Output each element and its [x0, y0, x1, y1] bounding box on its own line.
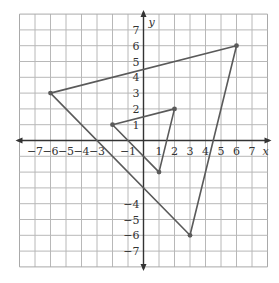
vertex-point [172, 107, 177, 112]
tick-labels: −7−6−5−4−3−112345677654321−4−5−6−7xy [27, 16, 270, 258]
y-tick-label: 5 [133, 56, 140, 69]
x-tick-label: −7 [27, 145, 43, 158]
y-tick-label: 1 [133, 119, 140, 132]
x-tick-label: 3 [187, 145, 194, 158]
x-tick-label: 5 [218, 145, 225, 158]
y-axis-label: y [148, 16, 156, 29]
x-tick-label: 4 [202, 145, 209, 158]
x-axis-label: x [262, 145, 269, 158]
vertex-point [234, 43, 239, 48]
x-tick-label: −5 [58, 145, 74, 158]
x-tick-label: 7 [249, 145, 256, 158]
x-tick-label: 2 [171, 145, 178, 158]
x-tick-label: 6 [233, 145, 240, 158]
vertex-point [157, 170, 162, 175]
y-tick-label: 4 [133, 71, 140, 84]
vertex-point [48, 91, 53, 96]
coordinate-plane: −7−6−5−4−3−112345677654321−4−5−6−7xy [0, 0, 279, 283]
x-tick-label: −6 [42, 145, 58, 158]
y-tick-label: −7 [123, 245, 139, 258]
y-tick-label: 7 [133, 24, 140, 37]
y-tick-label: 6 [133, 40, 140, 53]
y-tick-label: −5 [123, 214, 139, 227]
y-tick-label: 3 [133, 87, 140, 100]
vertex-point [110, 122, 115, 127]
x-tick-label: 1 [156, 145, 163, 158]
x-tick-label: −4 [73, 145, 89, 158]
axes [16, 10, 272, 271]
y-tick-label: 2 [133, 103, 140, 116]
y-tick-label: −4 [123, 198, 139, 211]
vertex-point [188, 233, 193, 238]
y-tick-label: −6 [123, 229, 139, 242]
